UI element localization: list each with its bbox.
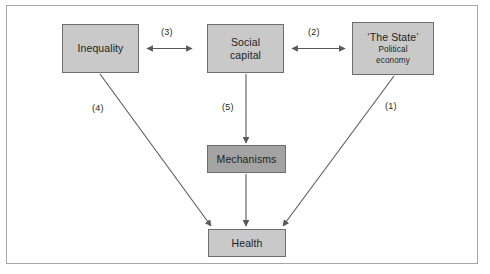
edge-label-3: (3) [161,27,173,37]
node-the-state-label-line1: ‘The State’ [367,31,418,44]
node-the-state: ‘The State’ Political economy [352,22,434,75]
edge-label-5: (5) [222,102,234,112]
diagram-canvas: Inequality Social capital ‘The State’ Po… [0,0,490,274]
node-social-capital-label-line2: capital [230,49,261,62]
node-health: Health [208,229,286,257]
edge-label-1: (1) [385,101,397,111]
node-mechanisms-label: Mechanisms [217,153,277,166]
node-social-capital-label-line1: Social [231,36,260,49]
node-mechanisms: Mechanisms [207,145,286,173]
node-health-label: Health [232,237,263,250]
edge-label-4: (4) [92,103,104,113]
edge-label-2: (2) [308,27,320,37]
node-the-state-label-line2: Political [378,45,407,55]
node-the-state-label-line3: economy [376,56,410,66]
node-inequality-label: Inequality [78,42,124,55]
node-inequality: Inequality [62,24,139,73]
node-social-capital: Social capital [207,24,284,73]
